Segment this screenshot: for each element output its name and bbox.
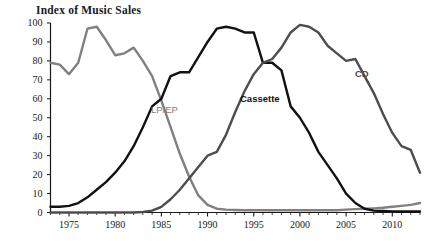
y-axis-tick-label: 80 (19, 55, 43, 66)
x-axis-tick-label: 2005 (326, 219, 366, 230)
x-axis-tick-label: 1980 (95, 219, 135, 230)
y-axis-tick-label: 20 (19, 169, 43, 180)
y-axis-tick-label: 40 (19, 131, 43, 142)
x-axis-tick-label: 2000 (280, 219, 320, 230)
series-label-cassette: Cassette (240, 93, 280, 104)
y-axis-tick-label: 70 (19, 74, 43, 85)
y-axis-tick-label: 10 (19, 188, 43, 199)
y-axis-tick-label: 90 (19, 36, 43, 47)
series-label-lp-ep: LP/EP (151, 104, 178, 115)
x-axis-tick-label: 1995 (234, 219, 274, 230)
series-label-cd: CD (355, 68, 369, 79)
music-sales-chart: Index of Music Sales 0102030405060708090… (0, 0, 427, 241)
y-axis-tick-label: 60 (19, 93, 43, 104)
y-axis-tick-label: 50 (19, 112, 43, 123)
x-axis-tick-label: 1975 (49, 219, 89, 230)
y-axis-tick-label: 30 (19, 150, 43, 161)
chart-plot-area (0, 0, 427, 241)
x-axis-tick-label: 2010 (372, 219, 412, 230)
x-axis-tick-label: 1990 (188, 219, 228, 230)
y-axis-tick-label: 100 (19, 17, 43, 28)
y-axis-tick-label: 0 (19, 207, 43, 218)
series-line-cd (51, 25, 421, 213)
axes (47, 23, 420, 217)
series-line-cassette (51, 27, 421, 212)
series-lines (51, 25, 421, 213)
x-axis-tick-label: 1985 (141, 219, 181, 230)
